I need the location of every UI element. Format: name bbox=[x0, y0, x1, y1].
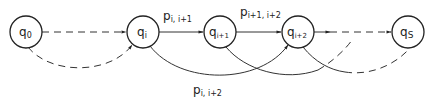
edge-qi2-qs-curve bbox=[303, 47, 345, 72]
edge-qi-qi2-curve bbox=[150, 45, 288, 75]
node-qi1: qi+1 bbox=[204, 16, 236, 48]
state-diagram: q0 qi qi+1 qi+2 qS pi, i+1 pi+1, i+2 pi,… bbox=[0, 0, 435, 108]
node-q0: q0 bbox=[10, 16, 42, 48]
node-qs: qS bbox=[392, 16, 424, 48]
label-p-i1-i2: pi+1, i+2 bbox=[240, 5, 281, 20]
edge-qi2-qs-curve-dashed bbox=[345, 48, 410, 73]
label-p-i-i2: pi, i+2 bbox=[193, 83, 222, 98]
edge-qi1-beyond-dashed bbox=[318, 40, 352, 70]
label-p-i-i1: pi, i+1 bbox=[163, 9, 192, 24]
edge-q0-qi-curve bbox=[28, 45, 132, 68]
node-qi: qi bbox=[127, 16, 159, 48]
node-qi2: qi+2 bbox=[282, 16, 314, 48]
